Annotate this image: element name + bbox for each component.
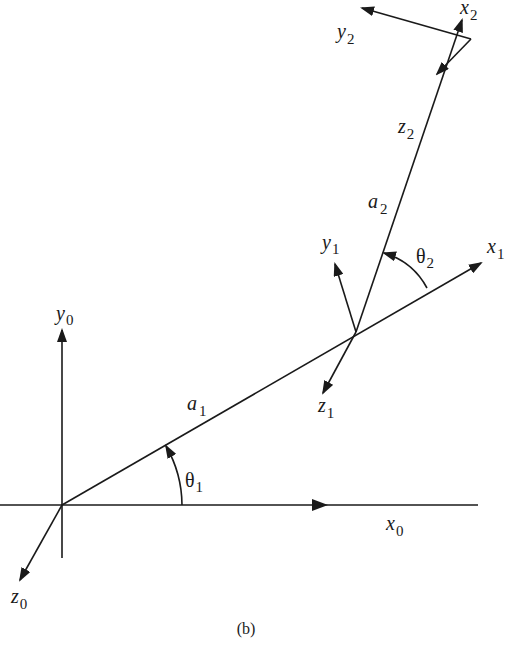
label-z2: z2 <box>397 115 414 142</box>
y1-axis <box>335 264 356 332</box>
label-x2: x2 <box>459 0 477 23</box>
frame-0 <box>0 330 478 580</box>
frame-1 <box>323 264 356 393</box>
z0-axis <box>20 505 62 580</box>
label-theta2: θ2 <box>416 245 434 271</box>
label-a1: a1 <box>187 392 207 419</box>
theta1-arc <box>166 446 182 505</box>
robot-arm-diagram: y0 x0 z0 a1 θ1 x1 y1 z1 a2 θ2 x2 y2 z2 (… <box>0 0 507 646</box>
link-1-and-x1-axis <box>62 263 481 505</box>
label-z1: z1 <box>317 394 334 421</box>
link-2-and-x2-axis <box>356 20 462 332</box>
label-x0: x0 <box>385 512 403 539</box>
figure-caption: (b) <box>237 620 256 638</box>
label-z0: z0 <box>10 585 27 612</box>
label-y0: y0 <box>54 302 73 328</box>
x0-arrow-icon <box>312 499 328 511</box>
label-theta1: θ1 <box>185 469 203 495</box>
label-x1: x1 <box>486 235 504 262</box>
z1-axis <box>323 332 356 393</box>
label-a2: a2 <box>368 190 388 217</box>
y2-axis <box>362 8 471 39</box>
label-y2: y2 <box>335 20 354 47</box>
label-y1: y1 <box>320 231 339 257</box>
